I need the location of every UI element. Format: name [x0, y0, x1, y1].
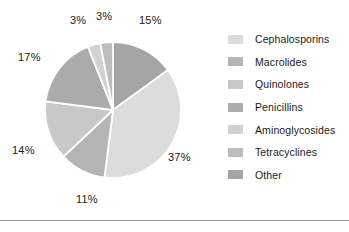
legend-item-label: Macrolides — [255, 56, 307, 68]
legend-item-label: Quinolones — [255, 78, 309, 90]
legend-item-label: Other — [255, 169, 282, 181]
pie-slice-percentage-label: 14% — [12, 144, 35, 156]
legend-item: Quinolones — [228, 73, 346, 96]
legend-item: Penicillins — [228, 96, 346, 119]
legend-item-label: Aminoglycosides — [255, 124, 335, 136]
legend-color-swatch — [228, 57, 243, 66]
legend-item: Tetracyclines — [228, 141, 346, 164]
pie-slice-percentage-label: 37% — [168, 151, 191, 163]
legend-item: Other — [228, 164, 346, 187]
legend-item-label: Penicillins — [255, 101, 303, 113]
pie-slice-percentage-label: 11% — [76, 193, 98, 205]
legend-color-swatch — [228, 125, 243, 134]
pie-slice-percentage-label: 3% — [70, 14, 86, 26]
pie-slice-percentage-label: 15% — [139, 14, 162, 26]
legend-item-label: Tetracyclines — [255, 146, 317, 158]
legend-color-swatch — [228, 103, 243, 112]
legend-color-swatch — [228, 35, 243, 44]
legend-item: Cephalosporins — [228, 28, 346, 51]
legend-item: Macrolides — [228, 51, 346, 74]
pie-slices — [45, 42, 181, 178]
legend-item-label: Cephalosporins — [255, 33, 329, 45]
pie-slice-percentage-label: 17% — [18, 51, 41, 63]
legend-color-swatch — [228, 170, 243, 179]
pie-slice-percentage-label: 3% — [96, 10, 112, 22]
legend-item: Aminoglycosides — [228, 118, 346, 141]
bottom-divider — [0, 220, 349, 221]
legend-color-swatch — [228, 80, 243, 89]
legend: CephalosporinsMacrolidesQuinolonesPenici… — [228, 28, 346, 186]
legend-color-swatch — [228, 148, 243, 157]
pie-chart-figure: 15%37%11%14%17%3%3% CephalosporinsMacrol… — [0, 0, 349, 232]
